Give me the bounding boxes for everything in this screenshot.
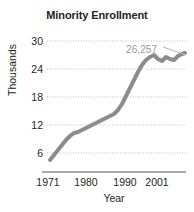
x-tick-1971: 1971 [32, 177, 64, 188]
annotation-leader-line [163, 47, 186, 55]
x-tick-2001: 2001 [141, 177, 173, 188]
x-axis-title: Year [42, 192, 186, 204]
x-tick-1980: 1980 [70, 177, 102, 188]
x-tick-1990: 1990 [109, 177, 141, 188]
data-point-annotation: 26,257 [126, 44, 157, 55]
chart-container: Minority Enrollment Thousands 30 24 18 1… [0, 0, 194, 212]
